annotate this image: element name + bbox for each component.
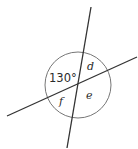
angle-f-label: f — [58, 95, 65, 108]
angle-diagram: 130° d e f — [0, 0, 138, 149]
shallow-line — [7, 57, 137, 116]
angle-d-label: d — [87, 60, 94, 73]
angle-e-label: e — [86, 89, 93, 102]
angle-130-label: 130° — [49, 71, 77, 85]
